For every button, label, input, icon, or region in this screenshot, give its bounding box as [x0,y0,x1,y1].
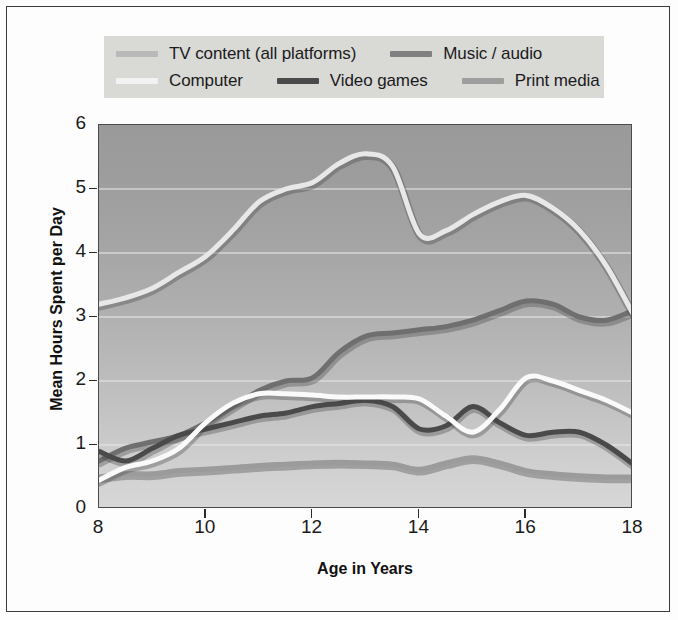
y-tick-label-5: 5 [56,176,86,198]
plot-area [98,124,632,508]
x-tick-mark-16 [524,509,526,518]
x-tick-mark-14 [418,509,420,518]
x-tick-label-18: 18 [612,516,652,538]
y-tick-mark-1 [89,444,97,446]
legend-swatch-music-audio [390,51,432,57]
y-tick-label-0: 0 [56,496,86,518]
legend-label-computer: Computer [169,71,243,91]
y-tick-label-4: 4 [56,240,86,262]
legend-item-computer: Computer [116,71,243,91]
y-tick-label-1: 1 [56,432,86,454]
y-tick-mark-4 [89,252,97,254]
legend-label-tv-content: TV content (all platforms) [169,44,356,64]
legend-label-music-audio: Music / audio [443,44,542,64]
y-tick-mark-3 [89,316,97,318]
x-tick-label-12: 12 [292,516,332,538]
x-tick-mark-12 [311,509,313,518]
legend-item-video-games: Video games [277,71,428,91]
plot-lines [99,125,632,508]
x-tick-label-16: 16 [505,516,545,538]
legend-label-video-games: Video games [330,71,428,91]
legend-swatch-video-games [277,78,319,84]
series-shadow-tv-content-all-platforms- [100,156,632,316]
y-tick-label-3: 3 [56,304,86,326]
legend-swatch-tv-content [116,51,158,57]
chart-legend: TV content (all platforms) Music / audio… [104,36,604,98]
legend-row-1: TV content (all platforms) Music / audio [116,40,594,67]
legend-swatch-computer [116,78,158,84]
x-tick-label-10: 10 [185,516,225,538]
legend-item-tv-content: TV content (all platforms) [116,44,356,64]
y-tick-mark-5 [89,188,97,190]
x-tick-label-14: 14 [398,516,438,538]
legend-swatch-print-media [462,78,504,84]
x-tick-mark-10 [204,509,206,518]
x-axis-title: Age in Years [98,560,632,578]
figure-container: TV content (all platforms) Music / audio… [0,0,678,620]
series-line-tv-content-all-platforms- [99,154,632,314]
x-tick-label-8: 8 [78,516,118,538]
y-tick-label-2: 2 [56,368,86,390]
y-tick-mark-2 [89,380,97,382]
legend-label-print-media: Print media [515,71,600,91]
y-tick-label-6: 6 [56,112,86,134]
legend-item-music-audio: Music / audio [390,44,542,64]
legend-item-print-media: Print media [462,71,600,91]
legend-row-2: Computer Video games Print media [116,67,594,94]
